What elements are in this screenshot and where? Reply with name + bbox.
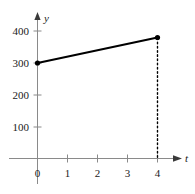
chart-figure: 400 300 200 100 0 1 2 3 4 y t: [0, 0, 195, 194]
x-tick-label-4: 4: [148, 168, 167, 179]
x-axis-arrowhead: [173, 155, 182, 162]
x-tick-label-2: 2: [88, 168, 107, 179]
x-tick-label-1: 1: [58, 168, 77, 179]
x-axis-label: t: [185, 153, 188, 164]
y-tick-label-100: 100: [3, 122, 29, 133]
data-point-start: [35, 60, 40, 65]
data-point-end: [155, 35, 160, 40]
x-tick-label-0: 0: [28, 168, 47, 179]
y-tick-label-200: 200: [3, 90, 29, 101]
data-line-segment: [38, 38, 158, 64]
y-axis-arrowhead: [34, 12, 40, 20]
y-tick-label-400: 400: [3, 26, 29, 37]
y-axis-label: y: [44, 13, 49, 24]
x-tick-label-3: 3: [118, 168, 137, 179]
chart-plot-area: [0, 0, 195, 194]
y-tick-label-300: 300: [3, 58, 29, 69]
